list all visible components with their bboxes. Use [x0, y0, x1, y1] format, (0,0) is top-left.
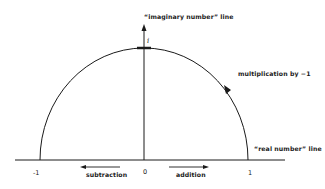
addition-arrowhead-icon: [203, 165, 209, 169]
i-label: i: [147, 37, 149, 45]
imaginary-line-label: “imaginary number” line: [144, 13, 234, 20]
real-line-label: “real number” line: [254, 145, 322, 152]
tick-label-one: 1: [248, 169, 252, 177]
rotation-arrowhead-icon: [224, 85, 231, 94]
rotation-label: multiplication by −1: [238, 70, 311, 77]
complex-plane-diagram: [0, 0, 325, 189]
subtraction-arrowhead-icon: [80, 165, 86, 169]
imaginary-axis-arrowhead-icon: [142, 24, 147, 31]
addition-label: addition: [176, 171, 206, 178]
tick-label-minus-one: -1: [33, 169, 39, 177]
tick-label-zero: 0: [143, 168, 147, 176]
subtraction-label: subtraction: [86, 171, 127, 178]
